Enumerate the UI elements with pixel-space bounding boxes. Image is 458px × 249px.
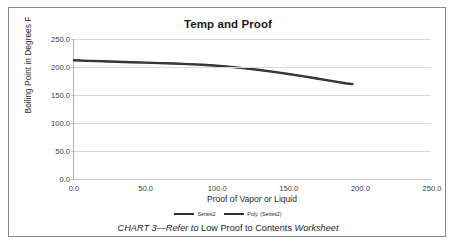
y-tick-mark: [71, 39, 74, 40]
x-tick-label: 200.0: [351, 184, 370, 193]
x-axis-title: Proof of Vapor or Liquid: [73, 194, 431, 204]
y-tick-label: 100.0: [51, 119, 70, 128]
y-axis-title: Boiling Point in Degrees F: [23, 0, 33, 140]
y-tick-mark: [71, 95, 74, 96]
caption-middle: Low Proof to Contents: [199, 223, 295, 233]
gridline-y: [74, 179, 431, 180]
caption-prefix: CHART 3—Refer to: [118, 223, 199, 233]
y-tick-label: 50.0: [55, 147, 70, 156]
chart-caption: CHART 3—Refer to Low Proof to Contents W…: [9, 223, 447, 233]
legend-line-swatch-poly-series2: [224, 213, 244, 215]
x-tick-label: 150.0: [279, 184, 298, 193]
gridline-y: [74, 67, 431, 68]
y-tick-label: 150.0: [51, 91, 70, 100]
y-tick-mark: [71, 123, 74, 124]
y-tick-label: 200.0: [51, 63, 70, 72]
legend-line-swatch-series2: [174, 213, 194, 215]
plot-area: 0.050.0100.0150.0200.0250.00.050.0100.01…: [73, 39, 431, 179]
chart-data-lines: [74, 39, 431, 179]
legend-label-poly-series2: Poly. (Series2): [247, 211, 281, 217]
legend-entry-poly-series2: Poly. (Series2): [224, 211, 281, 217]
poly-trendline-path: [74, 60, 352, 84]
chart-title: Temp and Proof: [9, 18, 447, 30]
x-tick-label: 100.0: [208, 184, 227, 193]
y-tick-mark: [71, 151, 74, 152]
caption-suffix: Worksheet: [295, 223, 339, 233]
gridline-y: [74, 39, 431, 40]
x-tick-label: 0.0: [69, 184, 80, 193]
gridline-y: [74, 123, 431, 124]
y-tick-label: 250.0: [51, 35, 70, 44]
y-tick-label: 0.0: [59, 175, 70, 184]
chart-figure-frame: Temp and Proof Boiling Point in Degrees …: [8, 7, 446, 237]
gridline-y: [74, 95, 431, 96]
legend-label-series2: Series2: [197, 211, 215, 217]
series2-line-path: [74, 60, 352, 84]
x-tick-label: 250.0: [422, 184, 441, 193]
chart-legend: Series2 Poly. (Series2): [9, 211, 447, 217]
legend-entry-series2: Series2: [174, 211, 215, 217]
x-tick-label: 50.0: [138, 184, 153, 193]
y-tick-mark: [71, 67, 74, 68]
gridline-y: [74, 151, 431, 152]
chart-screenshot: Temp and Proof Boiling Point in Degrees …: [0, 0, 458, 249]
y-tick-mark: [71, 179, 74, 180]
